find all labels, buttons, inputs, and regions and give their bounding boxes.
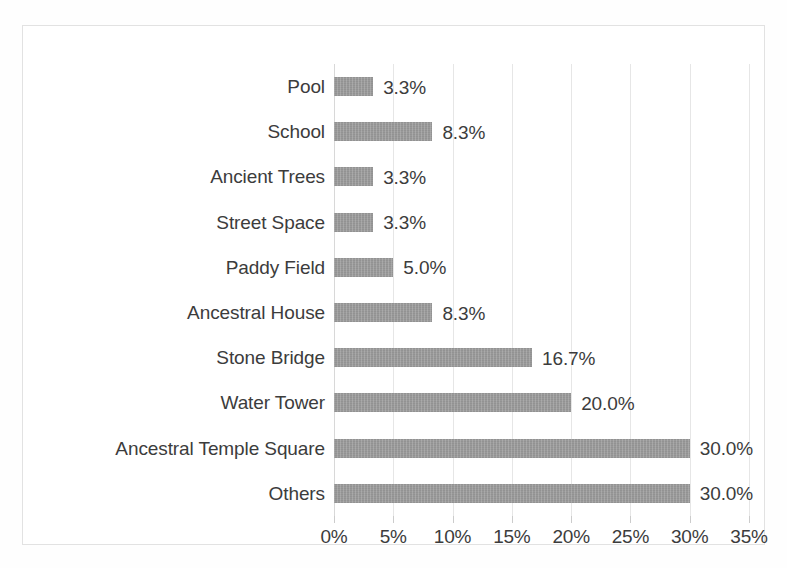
x-tick-mark	[690, 516, 691, 523]
bar: 3.3%	[334, 213, 373, 232]
bar-row: Street Space3.3%	[334, 200, 749, 245]
plot-area: Pool3.3%School8.3%Ancient Trees3.3%Stree…	[334, 64, 749, 516]
x-tick-mark	[334, 516, 335, 523]
x-tick-mark	[630, 516, 631, 523]
bar-value-label: 16.7%	[542, 348, 595, 367]
category-label: Ancestral House	[187, 303, 325, 322]
bar-value-label: 30.0%	[700, 439, 753, 458]
x-tick-label: 25%	[612, 526, 649, 548]
x-tick-label: 35%	[730, 526, 767, 548]
category-label: Ancient Trees	[210, 167, 325, 186]
bar-row: Pool3.3%	[334, 64, 749, 109]
x-tick-label: 20%	[552, 526, 589, 548]
bar: 5.0%	[334, 258, 393, 277]
x-axis-tick-marks	[334, 516, 749, 524]
bar: 3.3%	[334, 167, 373, 186]
bar-value-label: 8.3%	[442, 303, 485, 322]
x-tick-mark	[393, 516, 394, 523]
bar: 3.3%	[334, 77, 373, 96]
chart-frame: Pool3.3%School8.3%Ancient Trees3.3%Stree…	[22, 25, 765, 545]
bar-row: Stone Bridge16.7%	[334, 335, 749, 380]
bar-row: School8.3%	[334, 109, 749, 154]
bar-value-label: 30.0%	[700, 484, 753, 503]
category-label: Others	[269, 484, 325, 503]
bar: 8.3%	[334, 303, 432, 322]
bar-value-label: 8.3%	[442, 122, 485, 141]
x-tick-mark	[749, 516, 750, 523]
category-label: Pool	[287, 77, 325, 96]
category-label: Street Space	[216, 213, 325, 232]
bar: 30.0%	[334, 484, 690, 503]
bar-value-label: 5.0%	[403, 258, 446, 277]
bar-row: Others30.0%	[334, 471, 749, 516]
category-label: Water Tower	[221, 393, 326, 412]
bar-row: Paddy Field5.0%	[334, 245, 749, 290]
x-tick-label: 30%	[671, 526, 708, 548]
bar-row: Ancestral House8.3%	[334, 290, 749, 335]
category-label: Stone Bridge	[216, 348, 325, 367]
x-tick-mark	[571, 516, 572, 523]
bar-row: Ancient Trees3.3%	[334, 154, 749, 199]
bar: 20.0%	[334, 393, 571, 412]
x-tick-label: 10%	[434, 526, 471, 548]
bar-value-label: 20.0%	[581, 393, 634, 412]
bar-rows: Pool3.3%School8.3%Ancient Trees3.3%Stree…	[334, 64, 749, 516]
x-tick-label: 0%	[320, 526, 347, 548]
bar-value-label: 3.3%	[383, 213, 426, 232]
x-tick-mark	[453, 516, 454, 523]
bar-value-label: 3.3%	[383, 77, 426, 96]
bar: 8.3%	[334, 122, 432, 141]
bar-row: Water Tower20.0%	[334, 380, 749, 425]
category-label: Ancestral Temple Square	[115, 439, 325, 458]
x-axis-tick-labels: 0%5%10%15%20%25%30%35%	[334, 526, 749, 552]
bar-row: Ancestral Temple Square30.0%	[334, 426, 749, 471]
x-tick-label: 5%	[380, 526, 407, 548]
category-label: School	[268, 122, 326, 141]
bar: 16.7%	[334, 348, 532, 367]
bar-chart: Pool3.3%School8.3%Ancient Trees3.3%Stree…	[0, 0, 787, 568]
x-tick-label: 15%	[493, 526, 530, 548]
bar-value-label: 3.3%	[383, 167, 426, 186]
category-label: Paddy Field	[226, 258, 325, 277]
x-tick-mark	[512, 516, 513, 523]
bar: 30.0%	[334, 439, 690, 458]
